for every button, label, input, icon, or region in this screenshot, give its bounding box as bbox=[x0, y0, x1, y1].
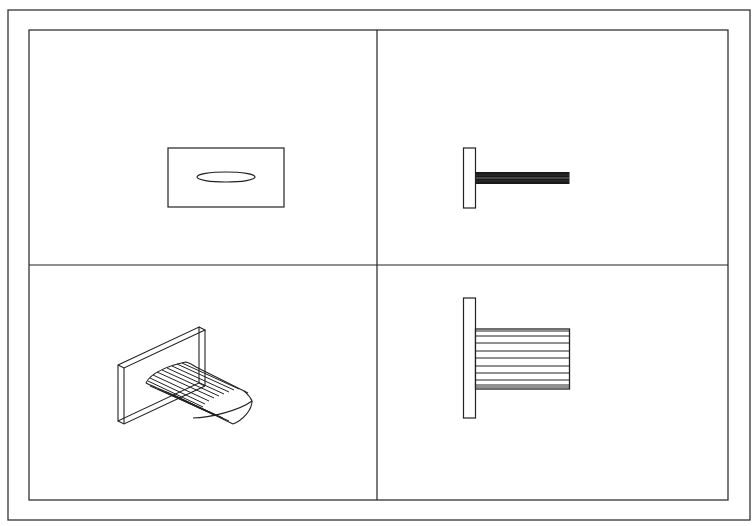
drawing-sheet bbox=[0, 0, 754, 526]
isometric-view bbox=[118, 327, 252, 424]
plate-edge bbox=[464, 148, 476, 208]
plate-outline bbox=[168, 148, 284, 207]
top-view bbox=[464, 148, 570, 208]
side-view bbox=[464, 298, 570, 418]
plate-edge bbox=[464, 298, 476, 418]
plate-front-face bbox=[118, 327, 199, 421]
front-view bbox=[168, 148, 284, 207]
blade-tip bbox=[193, 391, 252, 418]
blade-section bbox=[197, 172, 255, 182]
plate-top-edge bbox=[118, 327, 205, 368]
